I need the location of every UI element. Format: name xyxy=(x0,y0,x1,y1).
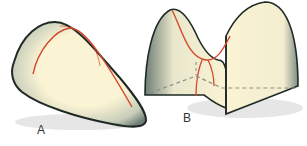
panel-a-surface xyxy=(12,22,146,130)
panel-a-label: A xyxy=(37,123,45,137)
figure-canvas xyxy=(0,0,307,146)
panel-b-label: B xyxy=(183,111,191,125)
panel-b-surface xyxy=(145,2,303,118)
